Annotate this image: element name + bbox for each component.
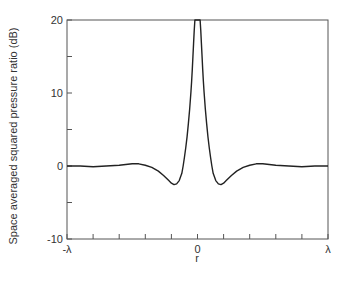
x-tick-label: λ xyxy=(325,243,331,255)
y-tick-label: 10 xyxy=(51,87,63,99)
plot-frame xyxy=(67,20,328,239)
x-axis-title: r xyxy=(195,252,199,264)
data-line xyxy=(67,20,328,185)
y-axis-ticks xyxy=(67,20,72,239)
y-axis-tick-labels: 20100-10 xyxy=(47,14,63,245)
x-tick-label: -λ xyxy=(62,243,72,255)
y-axis-title: Space averaged squared pressure ratio (d… xyxy=(7,27,19,244)
y-tick-label: 0 xyxy=(57,160,63,172)
chart: 20100-10 -λ0λ r Space averaged squared p… xyxy=(0,0,345,284)
y-tick-label: -10 xyxy=(47,233,63,245)
x-axis-ticks xyxy=(67,234,328,239)
y-tick-label: 20 xyxy=(51,14,63,26)
